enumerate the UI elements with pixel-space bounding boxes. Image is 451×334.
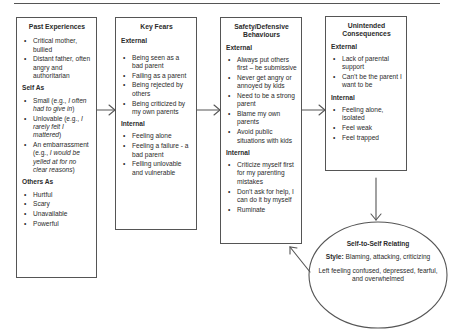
self-relating-title: Self-to-Self Relating (316, 240, 440, 248)
arrow-consequences-to-self-relating (371, 178, 381, 220)
self-relating-style: Style: Blaming, attacking, criticizing (316, 253, 440, 261)
self-relating-result: Left feeling confused, depressed, fearfu… (316, 267, 440, 284)
arrow-past-to-fears (97, 105, 115, 115)
arrow-safety-to-consequences (302, 105, 325, 115)
arrow-fears-to-safety (197, 105, 220, 115)
connector-arrows (0, 0, 451, 334)
arrow-self-relating-to-safety (290, 247, 310, 272)
self-relating-content: Self-to-Self Relating Style: Blaming, at… (316, 240, 440, 283)
